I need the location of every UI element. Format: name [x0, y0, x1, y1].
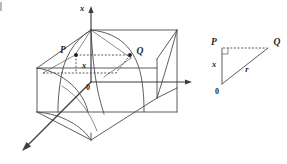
line-apex-to-p [75, 30, 91, 55]
line-q-to-base [104, 58, 131, 77]
box-edge-left-bottom-diagonal [37, 112, 91, 140]
geometry-figure-svg: x P Q x 0 P Q 0 x r [0, 0, 287, 164]
arc-right-face [157, 30, 177, 98]
point-q-marker [128, 53, 132, 57]
arc-apex-mid [91, 30, 104, 114]
triangle-vertex-p-label: P [211, 37, 217, 47]
apex-construction-lines [43, 30, 131, 77]
arc-apex-left [58, 30, 91, 112]
triangle-vertex-o-label: 0 [215, 87, 219, 96]
origin-label: 0 [86, 83, 90, 92]
coordinate-axes [22, 6, 192, 151]
axis-vertical-arrowhead [88, 6, 93, 13]
point-q-label: Q [137, 46, 144, 56]
right-angle-marker-icon [222, 48, 228, 54]
dashed-construction [43, 55, 130, 73]
figure-root: x P Q x 0 P Q 0 x r [0, 0, 287, 164]
triangle-side-x-label: x [211, 59, 217, 69]
dash-q-drop [116, 55, 130, 73]
axis-vertical-label: x [79, 3, 85, 13]
box-edge-top-right-diagonal [157, 30, 177, 59]
line-p-to-left-base [43, 55, 75, 73]
triangle-vertex-q-label: Q [274, 37, 281, 47]
arc-left-face [37, 68, 88, 112]
axis-horizontal-arrowhead [185, 79, 192, 84]
triangle-side-r-label: r [245, 64, 249, 74]
surface-arcs [37, 30, 177, 140]
arc-apex-right [91, 30, 144, 112]
scan-edge-artifact [0, 2, 2, 11]
point-p-marker [74, 53, 78, 57]
point-p-label: P [60, 45, 66, 55]
box-wireframe [37, 30, 177, 140]
measure-x-label: x [81, 60, 87, 70]
